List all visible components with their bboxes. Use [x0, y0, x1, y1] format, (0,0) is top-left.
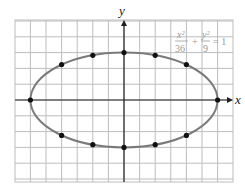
- y-axis-label: y: [117, 3, 125, 18]
- equation-y-denominator: 9: [203, 43, 208, 54]
- data-point: [121, 145, 126, 150]
- data-point: [28, 97, 33, 102]
- equation-y-numerator: y²: [201, 29, 210, 40]
- data-point: [184, 62, 189, 67]
- equation-plus: +: [192, 36, 198, 47]
- data-point: [184, 133, 189, 138]
- data-point: [90, 53, 95, 58]
- data-point: [121, 50, 126, 55]
- x-axis-arrow-icon: [227, 97, 233, 103]
- ellipse-chart: x y x² 36 + y² 9 = 1: [0, 0, 245, 191]
- data-point: [59, 62, 64, 67]
- data-point: [153, 53, 158, 58]
- x-axis-label: x: [234, 92, 241, 107]
- equation-x-denominator: 36: [175, 43, 185, 54]
- equation-rhs: = 1: [213, 36, 226, 47]
- data-point: [90, 142, 95, 147]
- equation-x-numerator: x²: [176, 29, 185, 40]
- data-point: [59, 133, 64, 138]
- data-point: [215, 97, 220, 102]
- data-point: [153, 142, 158, 147]
- equation: x² 36 + y² 9 = 1: [175, 29, 226, 54]
- axes: [15, 20, 233, 182]
